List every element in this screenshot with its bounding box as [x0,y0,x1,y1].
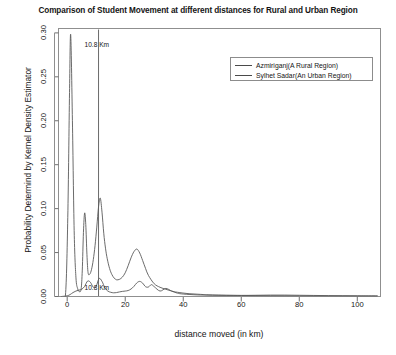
y-tick-label: 0.15 [38,151,47,177]
legend-label-rural: Azmiriganj(A Rural Region) [256,61,338,70]
x-tick-label: 40 [168,300,198,309]
y-axis-title: Probability Determind by Kernel Density … [23,30,33,290]
x-axis-title: distance moved (in km) [58,329,380,339]
legend-item-urban: Sylhet Sadar(An Urban Region) [235,70,352,80]
y-tick-label: 0.10 [38,195,47,221]
legend-item-rural: Azmiriganj(A Rural Region) [235,60,338,70]
legend-line-icon-urban [235,75,252,76]
x-tick-label: 100 [342,300,372,309]
x-tick-label: 0 [52,300,82,309]
chart-title: Comparison of Student Movement at differ… [0,6,396,15]
legend-line-icon-rural [235,65,252,66]
x-tick-label: 80 [284,300,314,309]
y-tick-label: 0.20 [38,107,47,133]
legend-label-urban: Sylhet Sadar(An Urban Region) [256,71,352,80]
y-tick-label: 0.05 [38,239,47,265]
y-tick-label: 0.00 [38,283,47,309]
upper-10-8-km-label: 10.8 Km [85,41,110,48]
y-tick-label: 0.30 [38,19,47,45]
chart-legend: Azmiriganj(A Rural Region) Sylhet Sadar(… [230,57,373,81]
y-tick-label: 0.25 [38,63,47,89]
x-tick-label: 20 [110,300,140,309]
x-tick-label: 60 [226,300,256,309]
lower-10-8-km-label: 10.8 Km [85,284,110,291]
density-plot-figure: Comparison of Student Movement at differ… [0,0,396,355]
